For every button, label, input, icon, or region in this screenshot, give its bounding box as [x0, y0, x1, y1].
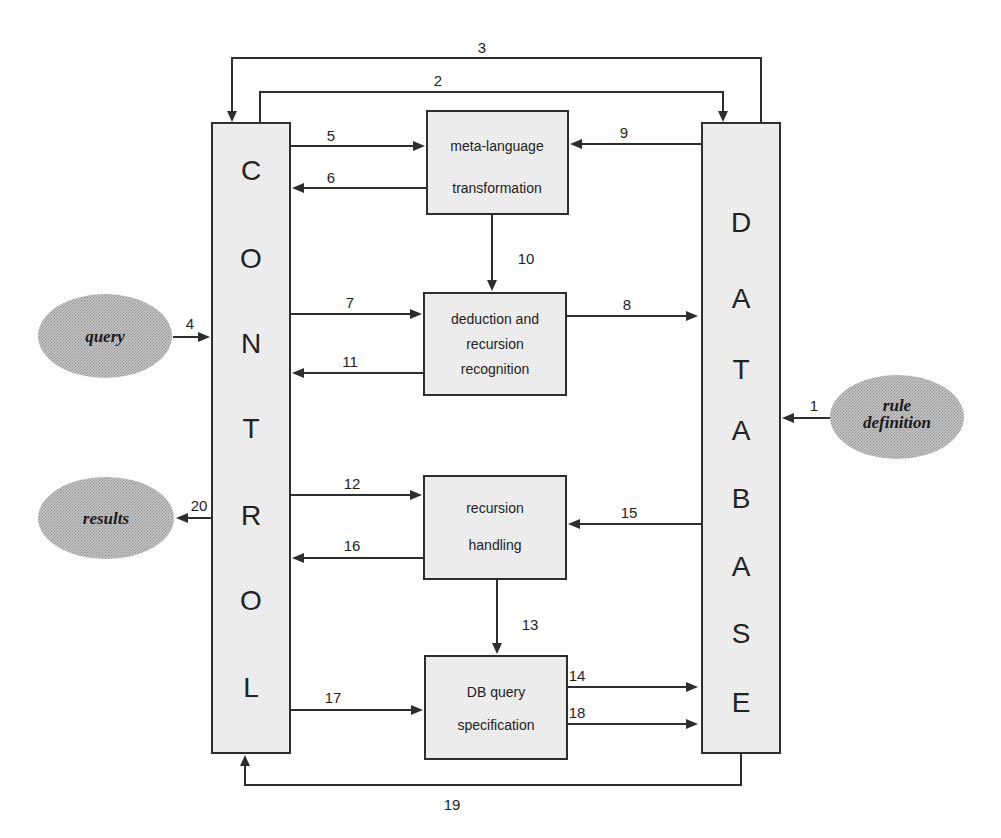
edge-12: 12 — [290, 475, 422, 500]
box-label: recursion — [466, 336, 524, 352]
ellipse-label: definition — [863, 413, 931, 432]
database-column: D A T A B A S E — [702, 123, 780, 753]
ellipse-label: query — [85, 327, 125, 346]
arrowhead-icon — [718, 111, 728, 122]
deduction-recursion-recognition-box: deduction and recursion recognition — [424, 293, 566, 395]
edge-10: 10 — [487, 214, 534, 291]
edge-9: 9 — [570, 124, 702, 149]
arrowhead-icon — [570, 139, 582, 149]
edge-label: 3 — [478, 39, 486, 56]
edge-19: 19 — [240, 753, 741, 813]
edge-16: 16 — [292, 537, 424, 563]
edge-label: 16 — [344, 537, 361, 554]
control-letter: O — [240, 243, 262, 274]
edge-1: 1 — [782, 397, 830, 423]
arrowhead-icon — [292, 183, 304, 193]
control-letter: O — [240, 585, 262, 616]
database-letter: A — [732, 415, 751, 446]
database-letter: E — [732, 687, 751, 718]
box-label: specification — [457, 717, 534, 733]
arrowhead-icon — [782, 413, 794, 423]
query-ellipse: query — [38, 294, 172, 378]
control-column: C O N T R O L — [212, 123, 290, 753]
control-letter: T — [242, 413, 259, 444]
edge-label: 11 — [342, 353, 358, 370]
edge-5: 5 — [290, 127, 425, 151]
arrowhead-icon — [411, 705, 423, 715]
edge-label: 12 — [344, 475, 361, 492]
edge-label: 2 — [434, 72, 442, 89]
edge-label: 18 — [569, 704, 586, 721]
edge-14: 14 14 — [567, 667, 698, 692]
arrowhead-icon — [227, 111, 237, 122]
database-letter: A — [732, 551, 751, 582]
box-label: recognition — [461, 361, 530, 377]
arrowhead-icon — [292, 368, 304, 378]
edge-18: 18 — [567, 704, 698, 729]
edge-label: 6 — [327, 169, 335, 186]
edge-label: 10 — [518, 250, 535, 267]
edge-15: 15 — [568, 504, 702, 529]
database-letter: D — [731, 207, 751, 238]
arrowhead-icon — [492, 643, 502, 654]
db-query-specification-box: DB query specification — [425, 656, 567, 759]
arrowhead-icon — [198, 332, 210, 342]
edge-20: 20 — [176, 497, 212, 523]
database-letter: T — [732, 354, 749, 385]
arrowhead-icon — [568, 519, 580, 529]
control-letter: N — [241, 328, 261, 359]
edge-17: 17 — [290, 689, 423, 715]
edge-label: 20 — [191, 497, 208, 514]
database-letter: B — [732, 483, 751, 514]
results-ellipse: results — [38, 477, 174, 559]
edge-label: 19 — [444, 796, 461, 813]
edge-6: 6 — [292, 169, 427, 193]
control-letter: L — [243, 672, 259, 703]
arrowhead-icon — [413, 141, 425, 151]
arrowhead-icon — [176, 513, 188, 523]
arrowhead-icon — [686, 682, 698, 692]
edge-label: 7 — [346, 294, 354, 311]
rule-definition-ellipse: rule definition — [830, 375, 964, 459]
control-letter: R — [241, 500, 261, 531]
box-label: meta-language — [450, 138, 544, 154]
edge-label: 5 — [327, 127, 335, 144]
arrowhead-icon — [686, 719, 698, 729]
arrowhead-icon — [410, 309, 422, 319]
edge-4: 4 — [173, 315, 210, 342]
edge-label: 17 — [325, 689, 342, 706]
edge-label: 9 — [620, 124, 628, 141]
arrowhead-icon — [686, 311, 698, 321]
meta-language-transformation-box: meta-language transformation — [427, 111, 568, 214]
edge-label: 8 — [623, 296, 631, 313]
edge-11: 11 — [292, 353, 424, 378]
box-label: recursion — [466, 500, 524, 516]
arrowhead-icon — [487, 280, 497, 291]
edge-label: 13 — [522, 616, 539, 633]
ellipse-label: results — [83, 509, 130, 528]
box-label: handling — [469, 537, 522, 553]
arrowhead-icon — [240, 755, 250, 766]
edge-7: 7 — [290, 294, 422, 319]
box-label: transformation — [452, 180, 541, 196]
system-flow-diagram: C O N T R O L D A T A B A S E meta-langu… — [0, 0, 1001, 838]
edge-13: 13 — [492, 579, 538, 654]
database-letter: A — [732, 283, 751, 314]
arrowhead-icon — [410, 490, 422, 500]
edge-label: 15 — [621, 504, 638, 521]
arrowhead-icon — [292, 553, 304, 563]
edge-label: 4 — [186, 315, 194, 332]
control-letter: C — [241, 155, 261, 186]
box-label: deduction and — [451, 311, 539, 327]
database-letter: S — [732, 618, 751, 649]
edge-8: 8 — [566, 296, 698, 321]
recursion-handling-box: recursion handling — [424, 476, 566, 579]
box-label: DB query — [467, 684, 525, 700]
edge-label: 14 — [569, 667, 586, 684]
edge-label: 1 — [810, 397, 818, 414]
